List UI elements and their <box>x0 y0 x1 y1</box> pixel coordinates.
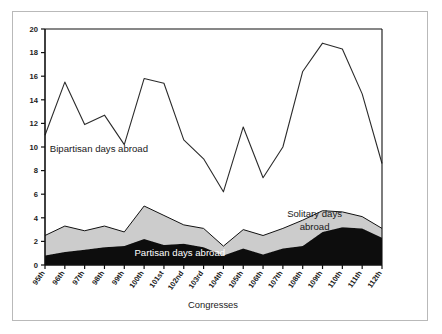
x-tick-label: 105th <box>226 269 245 290</box>
x-tick-label: 102nd <box>166 269 186 292</box>
series-annotation-3: abroad <box>300 221 330 232</box>
x-tick-label: 100th <box>127 269 146 290</box>
x-tick-label: 97th <box>70 269 86 287</box>
y-tick-label: 16 <box>30 72 38 81</box>
x-tick-label: 103rd <box>187 269 206 291</box>
x-tick-label: 109th <box>306 269 325 290</box>
y-tick-label: 8 <box>34 166 38 175</box>
y-tick-label: 4 <box>34 214 39 223</box>
y-tick-label: 10 <box>30 143 38 152</box>
x-tick-label: 104th <box>207 269 226 290</box>
y-tick-label: 18 <box>30 48 38 57</box>
series-annotation-2: Solitary days <box>287 208 342 219</box>
x-tick-label: 108th <box>286 269 305 290</box>
x-tick-label: 99th <box>110 269 126 287</box>
x-axis-title: Congresses <box>188 299 238 310</box>
x-tick-label: 106th <box>246 269 265 290</box>
y-tick-label: 20 <box>30 25 38 34</box>
x-tick-label: 110th <box>326 269 344 290</box>
stacked-area-line-chart: 02468101214161820 95th96th97th98th99th10… <box>0 0 442 334</box>
x-tick-label: 112th <box>365 269 383 290</box>
y-tick-label: 6 <box>34 190 38 199</box>
x-tick-label: 98th <box>90 269 106 287</box>
y-tick-label: 2 <box>34 237 38 246</box>
x-tick-label: 96th <box>50 269 66 287</box>
x-tick-label: 107th <box>266 269 285 290</box>
chart-figure: 02468101214161820 95th96th97th98th99th10… <box>0 0 442 334</box>
x-tick-label: 95th <box>31 269 47 287</box>
y-axis-ticks: 02468101214161820 <box>30 25 45 270</box>
x-tick-label: 101st <box>147 269 166 290</box>
series-annotation-1: Partisan days abroad <box>134 247 225 258</box>
y-tick-label: 14 <box>30 96 39 105</box>
x-axis-ticks: 95th96th97th98th99th100th101st102nd103rd… <box>31 265 384 292</box>
x-tick-label: 111th <box>346 269 364 290</box>
y-tick-label: 12 <box>30 119 38 128</box>
y-tick-label: 0 <box>34 261 38 270</box>
series-annotation-0: Bipartisan days abroad <box>50 143 148 154</box>
